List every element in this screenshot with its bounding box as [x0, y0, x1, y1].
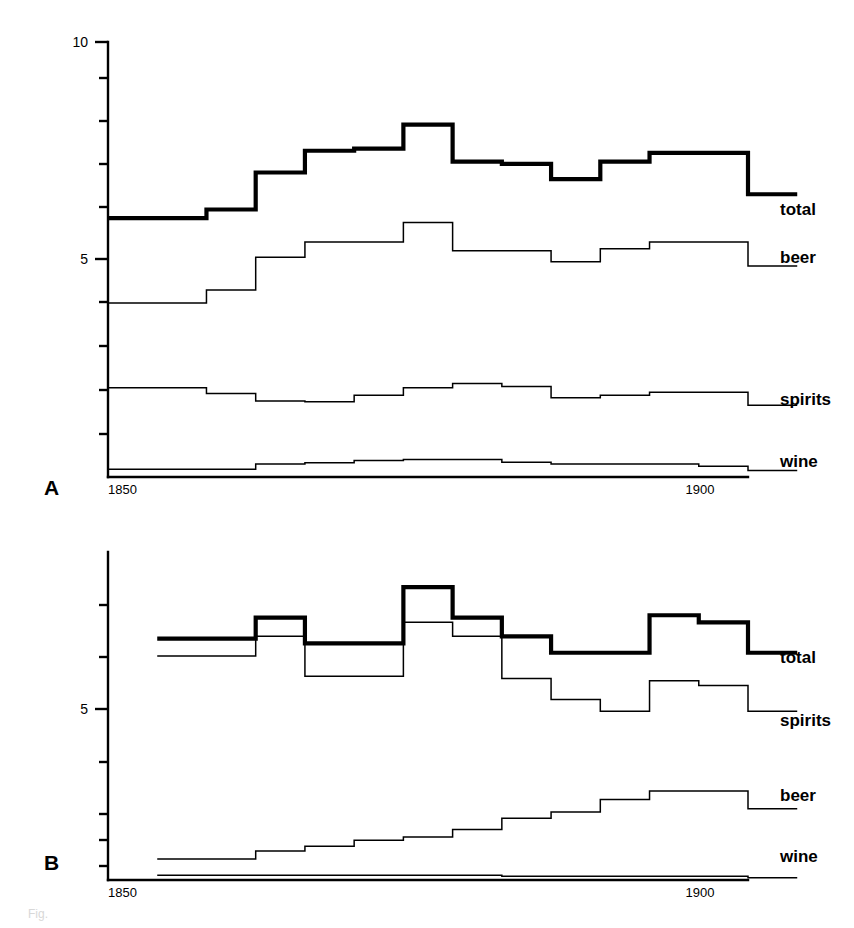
panel-b-xtick-label-1900: 1900	[686, 885, 715, 900]
panel-b-legend-spirits: spirits	[780, 711, 831, 730]
panel-b-series-total	[157, 587, 797, 653]
panel-b-series-wine	[157, 875, 797, 877]
panel-b-ytick-label-5: 5	[80, 701, 88, 717]
panel-b-series-spirits	[157, 622, 797, 711]
panel-b-xtick-label-1850: 1850	[108, 885, 137, 900]
panel-b-legend-beer: beer	[780, 786, 816, 805]
panel-a-series-spirits	[108, 383, 797, 405]
panel-b-label: B	[44, 851, 59, 874]
panel-a-chart: 10 5 1850 1900 total beer spirits wine A	[0, 0, 854, 510]
panel-a-series-wine	[108, 460, 797, 471]
panel-a-ytick-label-10: 10	[72, 34, 88, 50]
figure-container: 10 5 1850 1900 total beer spirits wine A	[0, 0, 854, 928]
panel-b-y-ticks	[95, 605, 108, 866]
panel-a-y-ticks	[95, 42, 108, 434]
panel-a-series-total	[108, 125, 797, 219]
panel-a-ytick-label-5: 5	[80, 251, 88, 267]
panel-a-legend-spirits: spirits	[780, 390, 831, 409]
panel-a-xtick-label-1850: 1850	[108, 482, 137, 497]
panel-b-series-beer	[157, 791, 797, 859]
panel-b-chart: 5 1850 1900 total spirits beer wine B Fi…	[0, 510, 854, 928]
panel-b-legend-total: total	[780, 648, 816, 667]
panel-a-legend-total: total	[780, 200, 816, 219]
panel-b-legend-wine: wine	[779, 847, 818, 866]
panel-a-series-beer	[108, 223, 797, 303]
panel-a-legend-wine: wine	[779, 452, 818, 471]
panel-a-xtick-label-1900: 1900	[686, 482, 715, 497]
figure-caption: Fig.	[28, 907, 48, 921]
panel-a-legend-beer: beer	[780, 248, 816, 267]
panel-a-label: A	[44, 476, 59, 499]
